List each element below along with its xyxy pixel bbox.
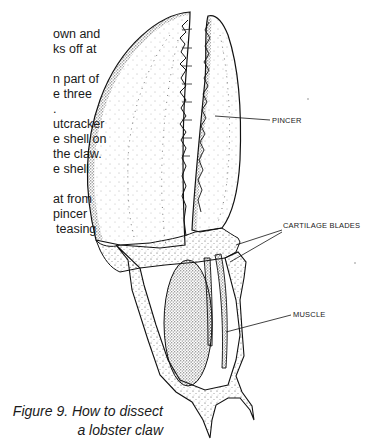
caption-line-2: a lobster claw	[13, 421, 163, 440]
muscle-mass	[164, 260, 212, 386]
label-muscle: MUSCLE	[293, 310, 325, 319]
speck	[307, 98, 309, 100]
figure-caption: Figure 9. How to dissect a lobster claw	[13, 402, 163, 440]
large-pincer	[88, 12, 193, 248]
speck	[354, 262, 356, 264]
caption-line-1: Figure 9. How to dissect	[13, 402, 163, 421]
label-pincer: PINCER	[272, 116, 302, 125]
label-cartilage-blades: CARTILAGE BLADES	[283, 221, 360, 230]
small-pincer	[192, 16, 241, 232]
